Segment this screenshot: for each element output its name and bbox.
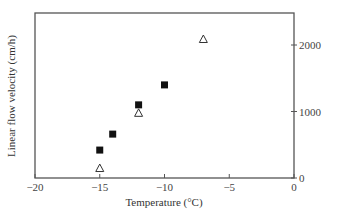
triangle-marker <box>96 164 104 172</box>
plot-frame <box>35 13 294 178</box>
y-tick-label: 2000 <box>299 39 322 51</box>
square-marker <box>135 101 142 108</box>
data-points <box>96 35 208 172</box>
x-tick-label: −10 <box>156 181 174 193</box>
y-axis-ticks: 010002000 <box>291 39 322 184</box>
square-marker <box>161 81 168 88</box>
x-tick-label: −15 <box>91 181 109 193</box>
scatter-chart: −20−15−10−50 010002000 Temperature (°C) … <box>0 0 340 210</box>
y-tick-label: 1000 <box>299 106 322 118</box>
triangle-marker <box>135 109 143 117</box>
triangle-marker <box>199 35 207 43</box>
x-tick-label: 0 <box>291 181 297 193</box>
y-axis-title: Linear flow velocity (cm/h) <box>5 35 18 157</box>
y-tick-label: 0 <box>299 172 305 184</box>
x-tick-label: −5 <box>223 181 235 193</box>
x-axis-ticks: −20−15−10−50 <box>26 174 297 193</box>
x-tick-label: −20 <box>26 181 44 193</box>
square-marker <box>109 131 116 138</box>
x-axis-title: Temperature (°C) <box>125 196 203 209</box>
square-marker <box>96 147 103 154</box>
